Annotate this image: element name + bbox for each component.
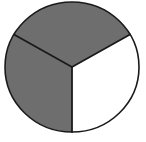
pie-chart-figure xyxy=(0,0,146,142)
pie-chart-svg xyxy=(0,0,146,142)
